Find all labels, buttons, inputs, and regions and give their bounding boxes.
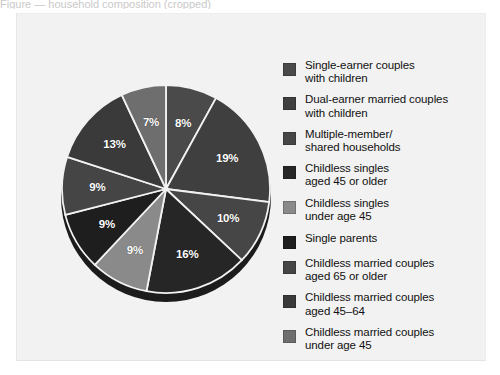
legend-item: Single-earner couples with children: [283, 58, 499, 85]
pie-slice-label: 10%: [217, 212, 239, 224]
pie-slice-label: 16%: [176, 248, 198, 260]
legend-item: Childless married couples aged 65 or old…: [283, 256, 499, 283]
pie-chart: 8%19%10%16%9%9%9%13%7%: [55, 76, 277, 316]
legend-color-swatch: [283, 97, 296, 110]
legend-item-label: Dual-earner married couples with childre…: [305, 92, 448, 119]
pie-slice-label: 9%: [127, 244, 143, 256]
pie-slice-label: 13%: [103, 138, 125, 150]
pie-slice-label: 19%: [216, 152, 238, 164]
pie-slice-label: 9%: [89, 181, 105, 193]
legend-item: Single parents: [283, 231, 499, 249]
legend-color-swatch: [283, 63, 296, 76]
legend-item: Childless singles under age 45: [283, 196, 499, 223]
pie-slice-label: 7%: [143, 116, 159, 128]
legend-color-swatch: [283, 132, 296, 145]
legend-item-label: Childless married couples aged 65 or old…: [305, 256, 434, 283]
legend-item: Childless married couples under age 45: [283, 325, 499, 352]
legend-color-swatch: [283, 330, 296, 343]
legend-item-label: Childless singles aged 45 or older: [305, 161, 389, 188]
legend-item: Multiple-member/ shared households: [283, 127, 499, 154]
legend: Single-earner couples with childrenDual-…: [283, 58, 499, 359]
legend-item-label: Single parents: [305, 231, 377, 245]
pie-slice-label: 9%: [99, 218, 115, 230]
cropped-caption: Figure — household composition (cropped): [0, 0, 500, 9]
chart-panel: 8%19%10%16%9%9%9%13%7% Single-earner cou…: [16, 13, 486, 361]
legend-item-label: Childless married couples under age 45: [305, 325, 434, 352]
legend-color-swatch: [283, 295, 296, 308]
legend-item-label: Multiple-member/ shared households: [305, 127, 400, 154]
legend-item-label: Single-earner couples with children: [305, 58, 415, 85]
legend-item: Childless singles aged 45 or older: [283, 161, 499, 188]
legend-item-label: Childless married couples aged 45–64: [305, 290, 434, 317]
legend-item: Dual-earner married couples with childre…: [283, 92, 499, 119]
figure-container: Figure — household composition (cropped)…: [0, 0, 500, 375]
legend-color-swatch: [283, 201, 296, 214]
legend-color-swatch: [283, 236, 296, 249]
legend-color-swatch: [283, 261, 296, 274]
legend-item-label: Childless singles under age 45: [305, 196, 389, 223]
pie-slice-label: 8%: [175, 117, 191, 129]
legend-color-swatch: [283, 166, 296, 179]
legend-item: Childless married couples aged 45–64: [283, 290, 499, 317]
